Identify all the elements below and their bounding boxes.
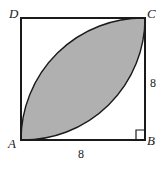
vertex-label-c: C xyxy=(147,7,156,20)
side-length-label-bottom: 8 xyxy=(78,148,84,160)
side-length-label-right: 8 xyxy=(150,77,156,89)
geometry-diagram xyxy=(0,0,164,170)
right-angle-marker-b xyxy=(136,130,145,139)
vertex-label-a: A xyxy=(8,137,16,150)
vertex-label-d: D xyxy=(9,7,18,20)
geometry-figure: D C A B 8 8 xyxy=(0,0,164,170)
shaded-lens-region xyxy=(21,18,145,140)
vertex-label-b: B xyxy=(147,134,155,147)
